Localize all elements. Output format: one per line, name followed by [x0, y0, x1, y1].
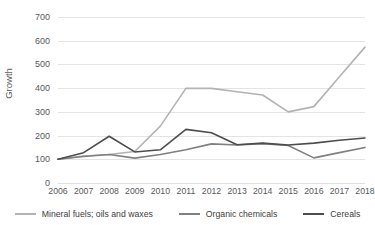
- x-axis-tick-label: 2008: [99, 186, 118, 196]
- gridline: [58, 183, 365, 184]
- legend-item[interactable]: Mineral fuels; oils and waxes: [15, 209, 153, 219]
- y-axis-tick-label: 100: [35, 155, 50, 164]
- y-axis-tick-label: 600: [35, 37, 50, 46]
- x-axis-tick-label: 2006: [48, 186, 67, 196]
- legend-item[interactable]: Cereals: [303, 209, 360, 219]
- legend-swatch-icon: [15, 213, 36, 215]
- x-axis-tick-label: 2012: [202, 186, 221, 196]
- line-chart: 0100200300400500600700 Growth 2006200720…: [0, 0, 375, 225]
- chart-legend: Mineral fuels; oils and waxesOrganic che…: [0, 206, 375, 222]
- y-axis-tick-label: 700: [35, 13, 50, 22]
- x-axis-tick-label: 2016: [304, 186, 323, 196]
- y-axis-tick-label: 200: [35, 132, 50, 141]
- x-axis-tick-labels: 2006200720082009201020112012201320142015…: [58, 186, 365, 200]
- y-axis-tick-label: 300: [35, 108, 50, 117]
- x-axis-tick-label: 2011: [177, 186, 196, 196]
- x-axis-tick-label: 2013: [227, 186, 246, 196]
- plot-area: [58, 17, 365, 183]
- series-line: [58, 144, 365, 160]
- series-lines: [58, 17, 365, 183]
- x-axis-tick-label: 2009: [125, 186, 144, 196]
- x-axis-tick-label: 2014: [253, 186, 272, 196]
- legend-label: Mineral fuels; oils and waxes: [42, 209, 153, 219]
- y-axis-title: Growth: [3, 54, 14, 114]
- x-axis-tick-label: 2007: [74, 186, 93, 196]
- legend-item[interactable]: Organic chemicals: [179, 209, 277, 219]
- legend-swatch-icon: [303, 213, 324, 215]
- x-axis-tick-label: 2018: [355, 186, 374, 196]
- legend-label: Cereals: [330, 209, 360, 219]
- y-axis-tick-label: 500: [35, 60, 50, 69]
- legend-label: Organic chemicals: [206, 209, 277, 219]
- x-axis-tick-label: 2010: [151, 186, 170, 196]
- legend-swatch-icon: [179, 213, 200, 215]
- x-axis-tick-label: 2015: [279, 186, 298, 196]
- y-axis-tick-label: 400: [35, 84, 50, 93]
- x-axis-tick-label: 2017: [330, 186, 349, 196]
